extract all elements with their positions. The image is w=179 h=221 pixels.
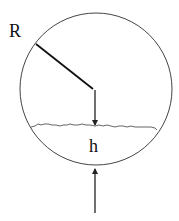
radius-label: R [9,21,21,41]
radius-line [36,44,93,89]
height-label: h [89,136,98,156]
liquid-surface [31,124,157,130]
tank-diagram: R h [0,0,179,221]
